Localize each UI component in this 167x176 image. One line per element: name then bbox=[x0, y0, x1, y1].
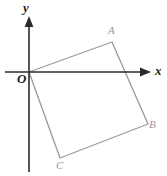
vertex-label-c: C bbox=[56, 160, 63, 171]
origin-label: O bbox=[17, 72, 26, 85]
arrow-up-icon bbox=[25, 16, 34, 27]
square-OABC-outline bbox=[29, 42, 148, 158]
figure-svg bbox=[0, 0, 167, 176]
arrow-right-icon bbox=[140, 68, 151, 77]
vertex-label-a: A bbox=[108, 25, 115, 36]
y-axis-label: y bbox=[23, 1, 29, 14]
x-axis-label: x bbox=[155, 64, 162, 77]
vertex-label-b: B bbox=[149, 119, 156, 130]
geometry-figure-canvas: y x O A B C bbox=[0, 0, 167, 176]
